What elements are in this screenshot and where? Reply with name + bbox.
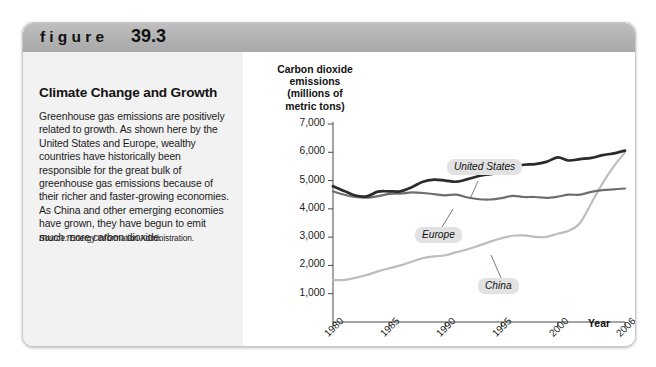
figure-header-bar: figure 39.3	[23, 23, 635, 52]
y-tick-label: 5,000	[283, 174, 325, 185]
figure-screenshot: figure 39.3 Climate Change and Growth Gr…	[0, 0, 656, 367]
y-tick-label: 1,000	[283, 287, 325, 298]
panel-body-text: Greenhouse gas emissions are positively …	[39, 110, 231, 244]
chart-area: Carbon dioxide emissions (millions of me…	[243, 52, 635, 346]
y-tick-label: 3,000	[283, 230, 325, 241]
figure-card: figure 39.3 Climate Change and Growth Gr…	[22, 22, 636, 347]
line-chart-plot	[243, 52, 635, 346]
figure-number: 39.3	[131, 26, 166, 47]
source-keyword: Source:	[39, 233, 67, 243]
y-tick-label: 6,000	[283, 145, 325, 156]
leader-line-united-states	[470, 181, 478, 199]
leader-line-europe	[442, 209, 453, 227]
series-line-europe	[333, 188, 625, 199]
description-panel: Climate Change and Growth Greenhouse gas…	[23, 52, 243, 346]
leader-line-china	[491, 255, 501, 278]
panel-title: Climate Change and Growth	[39, 85, 239, 100]
x-axis-title: Year	[588, 318, 610, 329]
y-tick-label: 7,000	[283, 117, 325, 128]
series-annotation-europe: Europe	[415, 227, 462, 243]
panel-source: Source: Energy Information Administratio…	[39, 233, 239, 243]
y-tick-label: 2,000	[283, 258, 325, 269]
figure-label: figure	[40, 28, 108, 46]
series-annotation-china: China	[478, 278, 519, 294]
y-tick-label: 4,000	[283, 202, 325, 213]
series-annotation-united-states: United States	[447, 159, 522, 175]
source-text: Energy Information Administration.	[67, 233, 194, 243]
